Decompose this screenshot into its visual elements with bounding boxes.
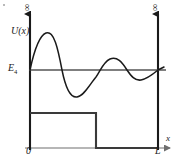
potential-well-figure: U(x) E4 0 L x ∞ ∞	[0, 0, 177, 161]
infinity-label-right: ∞	[149, 4, 160, 11]
energy-level-index: 4	[14, 68, 17, 75]
x-axis-label: x	[166, 134, 170, 143]
y-axis-label: U(x)	[11, 26, 29, 36]
origin-tick-label: 0	[26, 146, 31, 156]
energy-level-label: E4	[8, 63, 17, 76]
potential-step-curve	[30, 113, 158, 148]
wavefunction-curve	[30, 33, 164, 97]
well-width-tick-label: L	[155, 146, 161, 156]
infinity-label-left: ∞	[21, 4, 32, 11]
